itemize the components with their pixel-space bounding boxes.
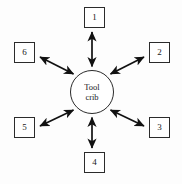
tool-crib-diagram: Tool crib 1 2 3 4 5 6	[0, 0, 182, 184]
node-box-6-label: 6	[22, 48, 27, 57]
hub-label-line-1: Tool	[84, 82, 99, 92]
node-box-6: 6	[14, 42, 35, 63]
node-box-3: 3	[149, 117, 170, 138]
connector-hub-to-node-5	[40, 110, 74, 126]
node-box-1-label: 1	[92, 13, 97, 22]
node-box-1: 1	[84, 7, 105, 28]
node-box-4-label: 4	[92, 158, 97, 167]
connector-hub-to-node-2	[111, 57, 145, 74]
node-box-2: 2	[149, 42, 170, 63]
connector-hub-to-node-6	[40, 57, 74, 74]
node-box-3-label: 3	[157, 123, 162, 132]
node-box-2-label: 2	[157, 48, 162, 57]
node-box-5-label: 5	[22, 123, 27, 132]
hub-node-tool-crib: Tool crib	[70, 70, 114, 114]
node-box-5: 5	[14, 117, 35, 138]
node-box-4: 4	[84, 152, 105, 173]
connector-hub-to-node-3	[111, 110, 145, 126]
hub-label-line-2: crib	[85, 92, 98, 102]
